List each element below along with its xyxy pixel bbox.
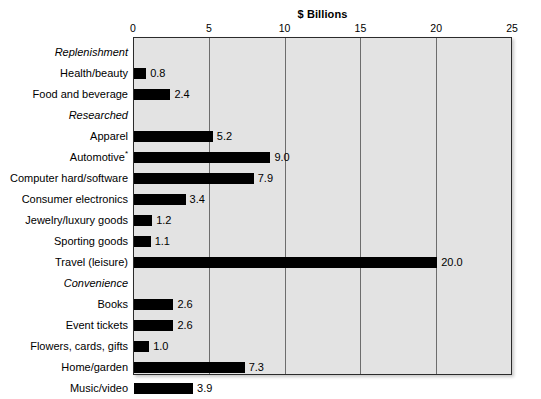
category-label: Consumer electronics: [0, 189, 128, 210]
bar: [134, 173, 254, 184]
bar: [134, 362, 245, 373]
x-axis-tick-labels: 0510152025: [0, 22, 541, 36]
chart-rows: ReplenishmentHealth/beauty0.8Food and be…: [0, 37, 541, 375]
bar: [134, 341, 149, 352]
category-label: Apparel: [0, 126, 128, 147]
bar: [134, 299, 173, 310]
chart-bar-row: Health/beauty0.8: [0, 63, 541, 84]
bar: [134, 194, 186, 205]
chart-bar-row: Books2.6: [0, 294, 541, 315]
chart-bar-row: Food and beverage2.4: [0, 84, 541, 105]
bar-value-label: 9.0: [270, 147, 289, 168]
x-tick-label-15: 15: [355, 22, 367, 34]
category-label: Sporting goods: [0, 231, 128, 252]
bar: [134, 89, 170, 100]
category-label: Jewelry/luxury goods: [0, 210, 128, 231]
chart-bar-row: Event tickets2.6: [0, 315, 541, 336]
bar-value-label: 1.2: [152, 210, 171, 231]
bar-value-label: 2.4: [170, 84, 189, 105]
bar-value-label: 7.3: [245, 357, 264, 378]
category-label: Convenience: [0, 273, 128, 294]
bar: [134, 236, 151, 247]
bar: [134, 131, 213, 142]
bar: [134, 152, 270, 163]
bar-value-label: 20.0: [437, 252, 462, 273]
category-label: Home/garden: [0, 357, 128, 378]
bar-value-label: 1.0: [149, 336, 168, 357]
bar: [134, 68, 146, 79]
bar: [134, 383, 193, 394]
chart-group-header-row: Replenishment: [0, 42, 541, 63]
bar: [134, 215, 152, 226]
category-label: Automotive*: [0, 147, 128, 168]
bar-value-label: 3.4: [186, 189, 205, 210]
category-label: Travel (leisure): [0, 252, 128, 273]
x-tick-label-25: 25: [506, 22, 518, 34]
category-label: Health/beauty: [0, 63, 128, 84]
chart-bar-row: Apparel5.2: [0, 126, 541, 147]
bar-value-label: 0.8: [146, 63, 165, 84]
category-label: Music/video: [0, 378, 128, 399]
chart-bar-row: Sporting goods1.1: [0, 231, 541, 252]
category-label: Flowers, cards, gifts: [0, 336, 128, 357]
bar-value-label: 1.1: [151, 231, 170, 252]
chart-bar-row: Jewelry/luxury goods1.2: [0, 210, 541, 231]
chart-bar-row: Consumer electronics3.4: [0, 189, 541, 210]
chart-bar-row: Travel (leisure)20.0: [0, 252, 541, 273]
x-tick-label-0: 0: [130, 22, 136, 34]
x-tick-label-20: 20: [430, 22, 442, 34]
category-label: Computer hard/software: [0, 168, 128, 189]
bar: [134, 320, 173, 331]
chart-bar-row: Music/video3.9: [0, 378, 541, 399]
category-label: Replenishment: [0, 42, 128, 63]
bar-chart-figure: $ Billions 0510152025 ReplenishmentHealt…: [0, 0, 541, 399]
chart-bar-row: Home/garden7.3: [0, 357, 541, 378]
chart-bar-row: Automotive*9.0: [0, 147, 541, 168]
chart-title: $ Billions: [133, 8, 512, 20]
chart-bar-row: Computer hard/software7.9: [0, 168, 541, 189]
x-tick-label-10: 10: [279, 22, 291, 34]
bar: [134, 257, 437, 268]
bar-value-label: 7.9: [254, 168, 273, 189]
bar-value-label: 2.6: [173, 294, 192, 315]
chart-bar-row: Flowers, cards, gifts1.0: [0, 336, 541, 357]
category-label: Event tickets: [0, 315, 128, 336]
bar-value-label: 5.2: [213, 126, 232, 147]
x-tick-label-5: 5: [206, 22, 212, 34]
chart-group-header-row: Convenience: [0, 273, 541, 294]
footnote-marker: *: [125, 149, 128, 158]
chart-group-header-row: Researched: [0, 105, 541, 126]
category-label: Food and beverage: [0, 84, 128, 105]
category-label: Researched: [0, 105, 128, 126]
category-label: Books: [0, 294, 128, 315]
bar-value-label: 3.9: [193, 378, 212, 399]
bar-value-label: 2.6: [173, 315, 192, 336]
